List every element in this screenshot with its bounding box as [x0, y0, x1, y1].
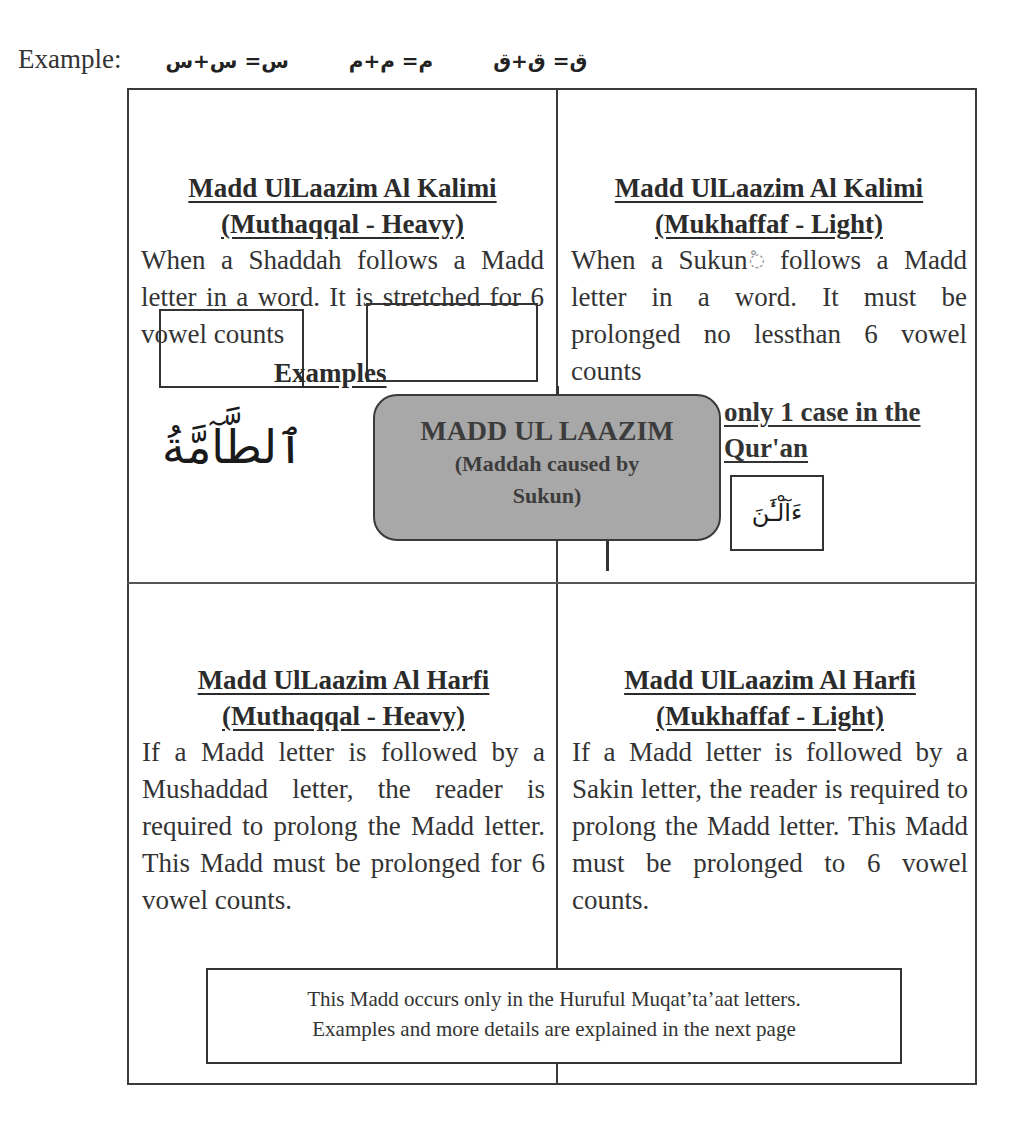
- central-title: MADD UL LAAZIM: [375, 414, 719, 448]
- footer-line1: This Madd occurs only in the Huruful Muq…: [208, 984, 900, 1014]
- cell-subtitle: (Mukhaffaf - Light): [571, 206, 967, 242]
- footer-note-box: This Madd occurs only in the Huruful Muq…: [206, 968, 902, 1064]
- central-subtitle-line1: (Maddah caused by: [375, 448, 719, 480]
- cell-title: Madd UlLaazim Al Kalimi: [571, 170, 967, 206]
- arabic-example-taammah: ٱلطَّآمَّةُ: [162, 420, 304, 474]
- cell-subtitle: (Muthaqqal - Heavy): [142, 698, 545, 734]
- sukun-symbol: ◌ْ: [749, 242, 765, 279]
- grid-vertical-divider: [556, 88, 558, 1085]
- cell-title: Madd UlLaazim Al Harfi: [572, 662, 968, 698]
- cell-subtitle: (Mukhaffaf - Light): [572, 698, 968, 734]
- example-line: Example: س= س+س م= م+م ق= ق+ق: [18, 44, 647, 84]
- cell-title: Madd UlLaazim Al Kalimi: [141, 170, 544, 206]
- example-equation-seen: س= س+س: [165, 49, 288, 73]
- examples-heading: Examples: [274, 358, 387, 389]
- arabic-example-text: ءَآلْـَٰٔنَ: [752, 499, 803, 527]
- example-equation-meem: م= م+م: [349, 49, 433, 73]
- empty-frame-right: [366, 303, 538, 382]
- cell-description: If a Madd letter is followed by a Sakin …: [572, 734, 968, 919]
- cell-harfi-muthaqqal: Madd UlLaazim Al Harfi (Muthaqqal - Heav…: [142, 662, 545, 919]
- footer-line2: Examples and more details are explained …: [208, 1014, 900, 1044]
- connector-line-top: [557, 386, 559, 394]
- only-case-note: only 1 case in the Qur'an: [724, 394, 974, 466]
- central-concept-box: MADD UL LAAZIM (Maddah caused by Sukun): [373, 394, 721, 541]
- cell-title: Madd UlLaazim Al Harfi: [142, 662, 545, 698]
- central-subtitle-line2: Sukun): [375, 480, 719, 512]
- cell-kalimi-mukhaffaf: Madd UlLaazim Al Kalimi (Mukhaffaf - Lig…: [571, 170, 967, 390]
- example-label: Example:: [18, 44, 121, 75]
- arabic-example-aalaan: ءَآلْـَٰٔنَ: [730, 475, 824, 551]
- connector-line-bottom: [606, 541, 609, 571]
- cell-harfi-mukhaffaf: Madd UlLaazim Al Harfi (Mukhaffaf - Ligh…: [572, 662, 968, 919]
- grid-horizontal-divider: [127, 582, 977, 584]
- description-part1: When a Sukun: [571, 245, 748, 275]
- cell-subtitle: (Muthaqqal - Heavy): [141, 206, 544, 242]
- example-equation-qaf: ق= ق+ق: [493, 49, 587, 73]
- cell-description: If a Madd letter is followed by a Mushad…: [142, 734, 545, 919]
- cell-description: When a Sukun◌ْ follows a Madd letter in …: [571, 242, 967, 390]
